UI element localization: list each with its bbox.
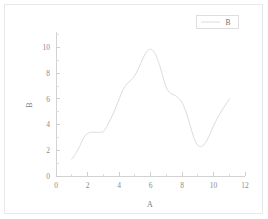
x-tick-label: 6 xyxy=(149,181,153,190)
chart-legend[interactable]: B xyxy=(197,16,239,29)
x-axis-title: A xyxy=(147,200,153,209)
y-tick-label: 8 xyxy=(46,69,50,78)
plot-canvas: 024681012 0246810 A B B xyxy=(0,0,268,219)
chart-figure: 024681012 0246810 A B B xyxy=(0,0,268,219)
x-tick-label: 0 xyxy=(54,181,58,190)
x-tick-label: 10 xyxy=(210,181,218,190)
x-tick-label: 2 xyxy=(86,181,90,190)
y-tick-label: 4 xyxy=(46,120,50,129)
y-axis-title: B xyxy=(25,102,34,107)
x-tick-label: 4 xyxy=(117,181,121,190)
legend-item-label: B xyxy=(225,18,230,27)
y-tick-label: 2 xyxy=(46,146,50,155)
axes-group xyxy=(56,32,245,176)
x-tick-label: 12 xyxy=(241,181,249,190)
x-axis-ticks xyxy=(56,172,245,176)
y-axis-tick-labels: 0246810 xyxy=(43,43,51,181)
y-tick-label: 0 xyxy=(46,172,50,181)
y-axis-ticks xyxy=(56,35,60,176)
x-axis-tick-labels: 024681012 xyxy=(54,181,249,190)
data-series-line xyxy=(72,49,230,159)
x-tick-label: 8 xyxy=(180,181,184,190)
y-tick-label: 6 xyxy=(46,95,50,104)
y-tick-label: 10 xyxy=(43,43,51,52)
